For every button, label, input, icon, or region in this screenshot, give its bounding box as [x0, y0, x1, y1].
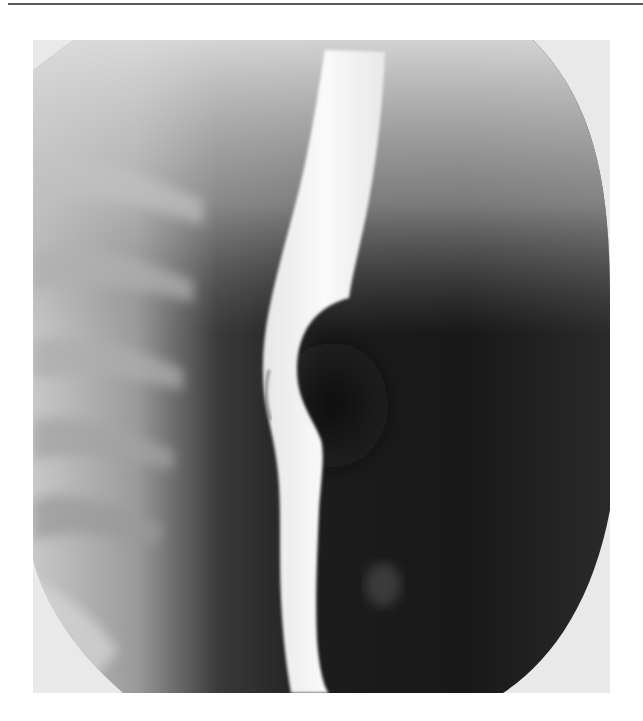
esophagram-image [33, 40, 610, 693]
top-rule-divider [8, 3, 643, 5]
fluoro-field-of-view [33, 40, 610, 693]
xray-figure [33, 40, 610, 693]
